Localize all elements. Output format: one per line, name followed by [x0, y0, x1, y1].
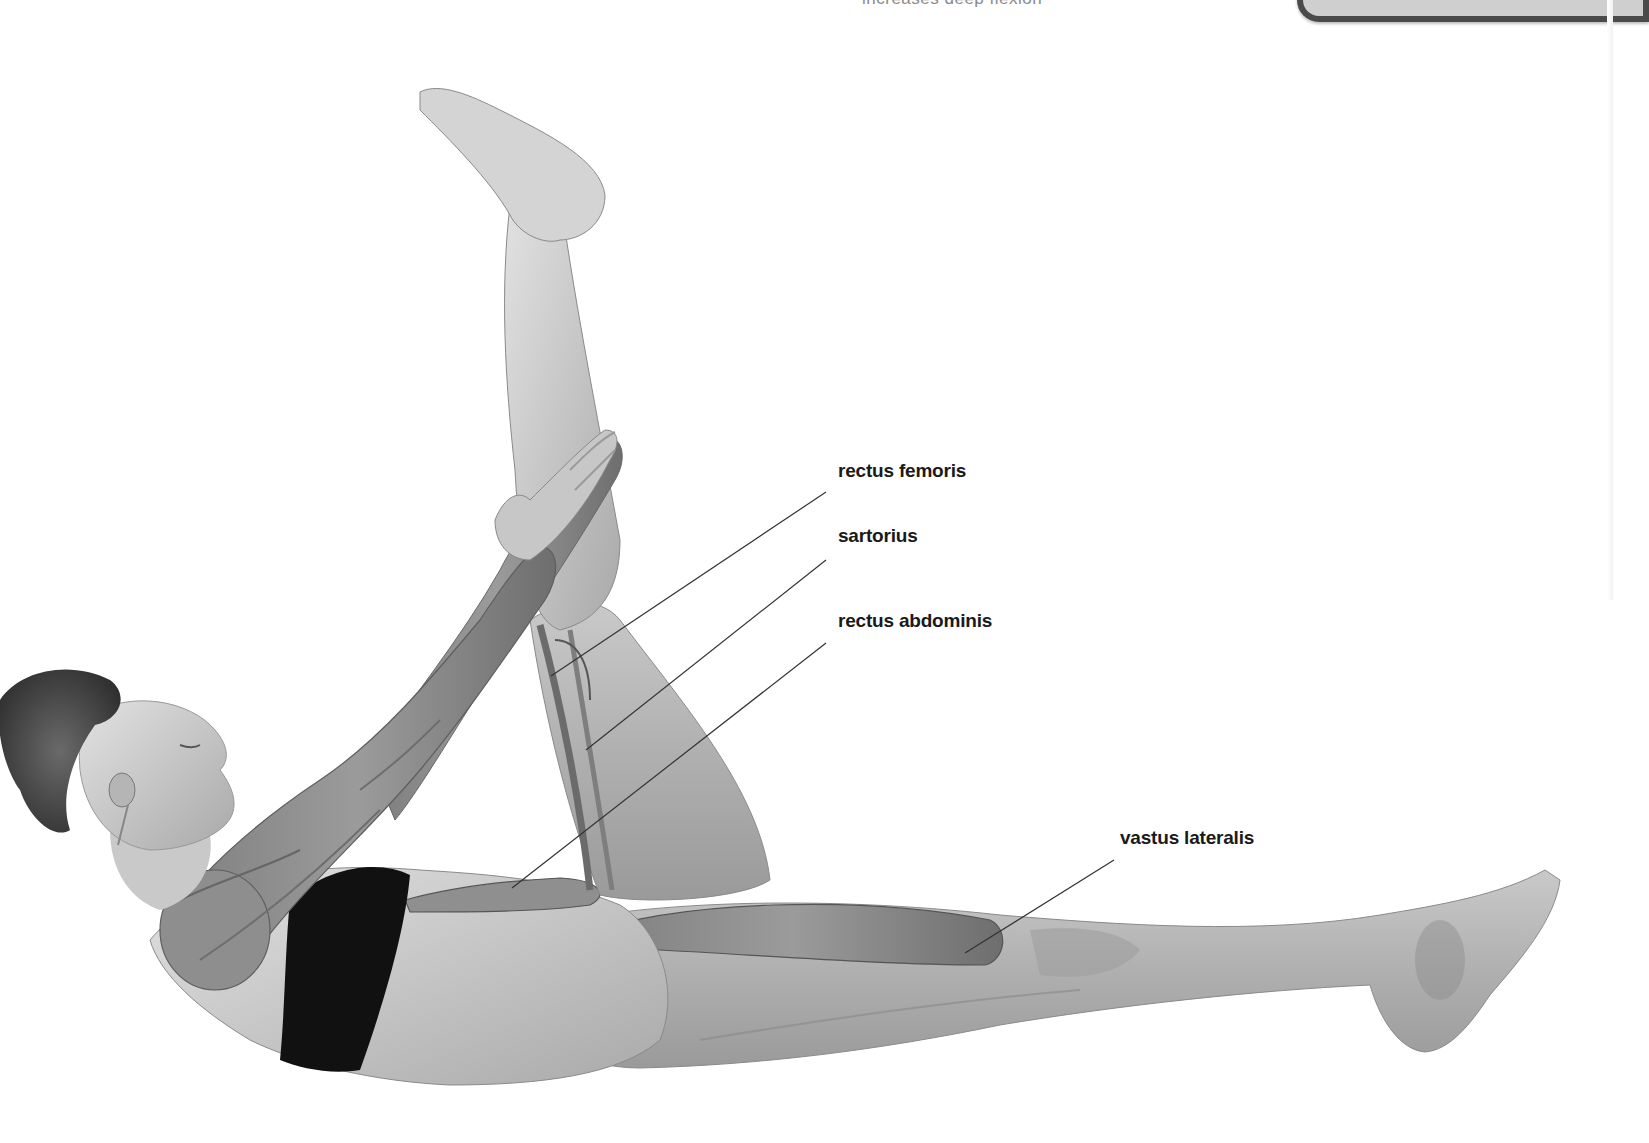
- head: [0, 670, 234, 910]
- label-rectus-femoris: rectus femoris: [838, 460, 966, 482]
- label-sartorius: sartorius: [838, 525, 918, 547]
- label-vastus-lateralis: vastus lateralis: [1120, 827, 1254, 849]
- label-rectus-abdominis: rectus abdominis: [838, 610, 992, 632]
